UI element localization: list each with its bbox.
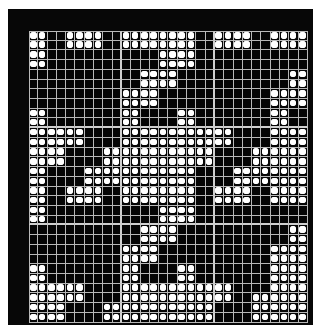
- grid-cell-filled-dot[interactable]: [159, 177, 168, 187]
- grid-cell-filled-dot[interactable]: [215, 284, 224, 294]
- grid-cell-filled-dot[interactable]: [168, 196, 177, 206]
- grid-cell-filled-dot[interactable]: [280, 293, 289, 303]
- grid-cell-filled-dot[interactable]: [38, 50, 47, 60]
- grid-cell-empty[interactable]: [103, 31, 112, 41]
- grid-cell-empty[interactable]: [94, 50, 103, 60]
- grid-cell-filled-dot[interactable]: [29, 50, 38, 60]
- grid-cell-empty[interactable]: [215, 177, 224, 187]
- grid-cell-empty[interactable]: [271, 60, 280, 70]
- grid-cell-empty[interactable]: [234, 245, 243, 255]
- grid-cell-empty[interactable]: [252, 128, 261, 138]
- grid-cell-empty[interactable]: [85, 303, 94, 313]
- grid-cell-filled-dot[interactable]: [280, 196, 289, 206]
- grid-cell-filled-dot[interactable]: [29, 41, 38, 51]
- grid-cell-filled-dot[interactable]: [159, 303, 168, 313]
- grid-cell-filled-dot[interactable]: [150, 255, 159, 265]
- grid-cell-filled-dot[interactable]: [150, 187, 159, 197]
- grid-cell-filled-dot[interactable]: [196, 284, 205, 294]
- grid-cell-filled-dot[interactable]: [271, 138, 280, 148]
- grid-cell-empty[interactable]: [48, 206, 57, 216]
- grid-cell-empty[interactable]: [113, 50, 122, 60]
- grid-cell-empty[interactable]: [57, 50, 66, 60]
- grid-cell-empty[interactable]: [113, 225, 122, 235]
- grid-cell-filled-dot[interactable]: [234, 177, 243, 187]
- grid-cell-empty[interactable]: [252, 109, 261, 119]
- grid-cell-filled-dot[interactable]: [168, 41, 177, 51]
- grid-cell-filled-dot[interactable]: [131, 118, 140, 128]
- grid-cell-filled-dot[interactable]: [280, 255, 289, 265]
- grid-cell-filled-dot[interactable]: [66, 284, 75, 294]
- grid-cell-filled-dot[interactable]: [113, 177, 122, 187]
- grid-cell-empty[interactable]: [196, 167, 205, 177]
- grid-cell-empty[interactable]: [66, 313, 75, 323]
- grid-cell-filled-dot[interactable]: [150, 41, 159, 51]
- grid-cell-filled-dot[interactable]: [141, 128, 150, 138]
- grid-cell-empty[interactable]: [103, 216, 112, 226]
- grid-cell-filled-dot[interactable]: [66, 196, 75, 206]
- grid-cell-empty[interactable]: [103, 187, 112, 197]
- grid-cell-filled-dot[interactable]: [196, 293, 205, 303]
- grid-cell-empty[interactable]: [243, 70, 252, 80]
- grid-cell-empty[interactable]: [48, 274, 57, 284]
- grid-cell-empty[interactable]: [252, 80, 261, 90]
- grid-cell-filled-dot[interactable]: [299, 167, 308, 177]
- grid-cell-empty[interactable]: [94, 128, 103, 138]
- grid-cell-filled-dot[interactable]: [75, 138, 84, 148]
- grid-cell-filled-dot[interactable]: [38, 128, 47, 138]
- grid-cell-filled-dot[interactable]: [261, 157, 270, 167]
- grid-cell-empty[interactable]: [271, 225, 280, 235]
- grid-cell-empty[interactable]: [234, 293, 243, 303]
- grid-cell-empty[interactable]: [57, 264, 66, 274]
- grid-cell-filled-dot[interactable]: [206, 284, 215, 294]
- grid-cell-empty[interactable]: [206, 41, 215, 51]
- grid-cell-empty[interactable]: [206, 70, 215, 80]
- grid-cell-filled-dot[interactable]: [29, 313, 38, 323]
- grid-cell-empty[interactable]: [94, 225, 103, 235]
- grid-cell-empty[interactable]: [224, 274, 233, 284]
- grid-cell-empty[interactable]: [289, 216, 298, 226]
- grid-cell-filled-dot[interactable]: [141, 41, 150, 51]
- grid-cell-empty[interactable]: [66, 89, 75, 99]
- grid-cell-filled-dot[interactable]: [159, 235, 168, 245]
- grid-cell-filled-dot[interactable]: [159, 128, 168, 138]
- grid-cell-empty[interactable]: [243, 206, 252, 216]
- grid-cell-filled-dot[interactable]: [299, 148, 308, 158]
- grid-cell-filled-dot[interactable]: [271, 99, 280, 109]
- grid-cell-filled-dot[interactable]: [29, 274, 38, 284]
- grid-cell-filled-dot[interactable]: [131, 138, 140, 148]
- grid-cell-filled-dot[interactable]: [122, 284, 131, 294]
- grid-cell-empty[interactable]: [252, 187, 261, 197]
- grid-cell-filled-dot[interactable]: [122, 313, 131, 323]
- grid-cell-empty[interactable]: [187, 235, 196, 245]
- grid-cell-filled-dot[interactable]: [289, 157, 298, 167]
- grid-cell-empty[interactable]: [159, 255, 168, 265]
- grid-cell-empty[interactable]: [215, 303, 224, 313]
- grid-cell-empty[interactable]: [187, 80, 196, 90]
- grid-cell-empty[interactable]: [224, 50, 233, 60]
- grid-cell-filled-dot[interactable]: [159, 157, 168, 167]
- grid-cell-empty[interactable]: [122, 80, 131, 90]
- grid-cell-empty[interactable]: [289, 60, 298, 70]
- grid-cell-filled-dot[interactable]: [113, 157, 122, 167]
- grid-cell-filled-dot[interactable]: [159, 293, 168, 303]
- grid-cell-empty[interactable]: [234, 235, 243, 245]
- grid-cell-empty[interactable]: [215, 167, 224, 177]
- grid-cell-empty[interactable]: [289, 118, 298, 128]
- grid-cell-filled-dot[interactable]: [38, 264, 47, 274]
- grid-cell-empty[interactable]: [187, 255, 196, 265]
- grid-cell-empty[interactable]: [57, 60, 66, 70]
- grid-cell-filled-dot[interactable]: [187, 50, 196, 60]
- grid-cell-filled-dot[interactable]: [38, 157, 47, 167]
- grid-cell-empty[interactable]: [280, 60, 289, 70]
- grid-cell-filled-dot[interactable]: [280, 148, 289, 158]
- grid-cell-empty[interactable]: [196, 274, 205, 284]
- grid-cell-empty[interactable]: [57, 177, 66, 187]
- grid-cell-empty[interactable]: [224, 255, 233, 265]
- grid-cell-empty[interactable]: [289, 50, 298, 60]
- grid-cell-filled-dot[interactable]: [243, 167, 252, 177]
- grid-cell-empty[interactable]: [187, 70, 196, 80]
- grid-cell-filled-dot[interactable]: [159, 80, 168, 90]
- grid-cell-filled-dot[interactable]: [141, 293, 150, 303]
- grid-cell-filled-dot[interactable]: [178, 187, 187, 197]
- grid-cell-filled-dot[interactable]: [187, 216, 196, 226]
